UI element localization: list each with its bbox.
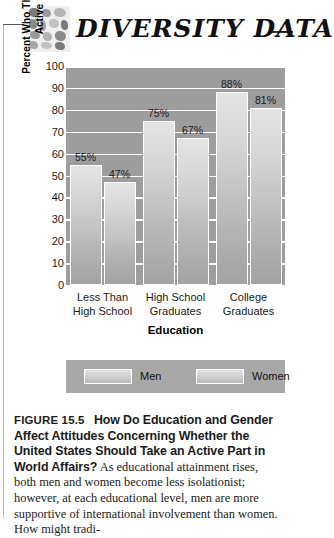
- figure-caption: FIGURE 15.5 How Do Education and Gender …: [14, 413, 282, 538]
- bar-women-2: 67%: [177, 138, 209, 285]
- x-axis-category-labels: Less ThanHigh SchoolHigh SchoolGraduates…: [66, 290, 285, 322]
- bar-value-label: 47%: [109, 168, 130, 180]
- bar-men-1: 55%: [70, 165, 102, 285]
- x-axis-label-2: High SchoolGraduates: [139, 290, 212, 318]
- y-tick-label: 90: [34, 83, 64, 93]
- bar-men-3: 88%: [216, 92, 248, 285]
- bar-women-3: 81%: [250, 108, 282, 285]
- y-tick-label: 10: [34, 258, 64, 268]
- x-label-line: High School: [139, 290, 212, 304]
- y-tick-label: 0: [34, 280, 64, 290]
- bar-value-label: 55%: [75, 151, 96, 163]
- y-tick-label: 30: [34, 214, 64, 224]
- y-tick-label: 80: [34, 105, 64, 115]
- bar-value-label: 88%: [221, 78, 242, 90]
- y-tick-label: 70: [34, 127, 64, 137]
- bar-women-1: 47%: [104, 182, 136, 285]
- page-title: DIVERSITY DATA: [76, 9, 276, 49]
- y-tick-label: 40: [34, 192, 64, 202]
- caption-gap: [85, 413, 94, 427]
- bar-value-label: 81%: [255, 94, 276, 106]
- mosaic-tile: [54, 8, 66, 17]
- legend-swatch: [196, 369, 244, 384]
- legend-label: Women: [252, 370, 290, 382]
- y-tick-label: 20: [34, 236, 64, 246]
- x-label-line: Graduates: [212, 304, 285, 318]
- mosaic-tile: [49, 19, 59, 28]
- x-label-line: College: [212, 290, 285, 304]
- mosaic-tile: [55, 31, 66, 41]
- mosaic-tile: [55, 42, 65, 50]
- bar-series-container: 55%47%75%67%88%81%: [66, 66, 285, 285]
- x-label-line: Less Than: [66, 290, 139, 304]
- legend-swatch: [84, 369, 132, 384]
- figure-number: FIGURE 15.5: [14, 414, 85, 426]
- y-tick-label: 100: [34, 61, 64, 71]
- chart-legend: MenWomen: [66, 360, 285, 393]
- mosaic-tile: [61, 20, 68, 30]
- x-label-line: High School: [66, 304, 139, 318]
- bar-value-label: 75%: [148, 107, 169, 119]
- x-axis-label-3: CollegeGraduates: [212, 290, 285, 318]
- plot-area: 55%47%75%67%88%81%: [66, 66, 285, 285]
- x-axis-title: Education: [66, 324, 285, 336]
- x-axis-label-1: Less ThanHigh School: [66, 290, 139, 318]
- x-label-line: Graduates: [139, 304, 212, 318]
- bar-value-label: 67%: [182, 124, 203, 136]
- bar-chart: Percent Who Think the U.S. Should Take a…: [0, 58, 296, 353]
- bar-men-2: 75%: [143, 121, 175, 285]
- y-tick-label: 60: [34, 149, 64, 159]
- legend-label: Men: [140, 370, 161, 382]
- y-tick-label: 50: [34, 171, 64, 181]
